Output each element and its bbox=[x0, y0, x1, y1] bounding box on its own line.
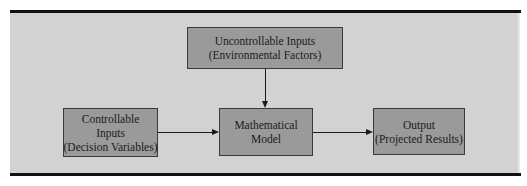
inputs-label: Inputs bbox=[96, 126, 125, 140]
uncontrollable-inputs-box: Uncontrollable Inputs (Environmental Fac… bbox=[187, 27, 343, 69]
mathematical-label: Mathematical bbox=[234, 118, 297, 132]
connector-uncontrollable-to-model bbox=[265, 69, 266, 102]
mathematical-model-box: Mathematical Model bbox=[219, 108, 313, 156]
projected-results-label: (Projected Results) bbox=[375, 132, 463, 146]
uncontrollable-inputs-label: Uncontrollable Inputs bbox=[215, 34, 316, 48]
controllable-inputs-box: Controllable Inputs (Decision Variables) bbox=[63, 108, 158, 157]
output-box: Output (Projected Results) bbox=[373, 108, 465, 155]
decision-variables-label: (Decision Variables) bbox=[64, 140, 158, 154]
model-label: Model bbox=[251, 132, 281, 146]
output-label: Output bbox=[403, 118, 435, 132]
environmental-factors-label: (Environmental Factors) bbox=[209, 48, 322, 62]
connector-controllable-to-model bbox=[158, 132, 213, 133]
arrow-down-icon bbox=[262, 101, 268, 108]
arrow-right-icon bbox=[366, 129, 373, 135]
connector-model-to-output bbox=[313, 132, 367, 133]
controllable-label: Controllable bbox=[82, 112, 140, 126]
bottom-rule bbox=[10, 173, 521, 176]
arrow-right-icon bbox=[212, 129, 219, 135]
